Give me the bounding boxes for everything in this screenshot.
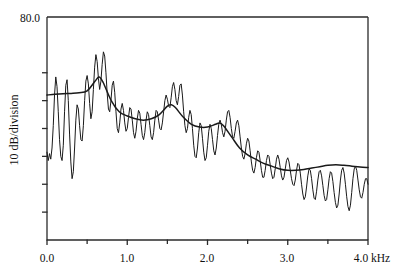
x-tick-label-4: 4.0 kHz [354, 252, 390, 264]
spectrum-plot: 80.0 10 dB/division 0.0 1.0 2.0 3.0 4.0 … [0, 0, 410, 272]
y-axis-top-label: 80.0 [20, 12, 40, 24]
spectrum-figure: 80.0 10 dB/division 0.0 1.0 2.0 3.0 4.0 … [0, 0, 410, 272]
x-tick-label-2: 2.0 [200, 252, 215, 264]
figure-background [0, 0, 410, 272]
x-tick-label-0: 0.0 [40, 252, 55, 264]
y-axis-title: 10 dB/division [7, 94, 21, 165]
x-tick-label-3: 3.0 [280, 252, 295, 264]
x-tick-label-1: 1.0 [120, 252, 135, 264]
